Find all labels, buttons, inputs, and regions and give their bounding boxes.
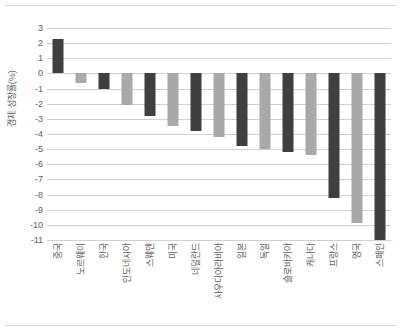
y-axis-tick-label: 0 bbox=[38, 69, 43, 78]
bar-slot bbox=[70, 28, 93, 240]
x-axis-label-독일: 독일 bbox=[260, 243, 269, 259]
x-axis-label-프랑스: 프랑스 bbox=[329, 243, 338, 267]
y-axis-tick-label: 3 bbox=[38, 24, 43, 33]
x-label-slot: 영국 bbox=[345, 243, 368, 327]
y-axis-tick-label: -10 bbox=[30, 220, 43, 229]
bar-영국 bbox=[351, 73, 362, 223]
y-axis-tick-labels: 3210-1-2-3-4-5-6-7-8-9-10-11 bbox=[10, 28, 43, 240]
y-axis-tick-label: 1 bbox=[38, 54, 43, 63]
bar-한국 bbox=[99, 73, 110, 88]
plot-area bbox=[47, 28, 391, 240]
bar-slot bbox=[368, 28, 391, 240]
x-label-slot: 스페인 bbox=[368, 243, 391, 327]
x-axis-label-인도네시아: 인도네시아 bbox=[123, 243, 132, 283]
economic-growth-bar-chart: 경제 성장률(%) 3210-1-2-3-4-5-6-7-8-9-10-11 중… bbox=[0, 0, 402, 331]
bar-일본 bbox=[236, 73, 247, 146]
x-axis-label-노르웨이: 노르웨이 bbox=[77, 243, 86, 275]
bar-slot bbox=[345, 28, 368, 240]
y-axis-tick-label: -3 bbox=[35, 114, 43, 123]
x-label-slot: 한국 bbox=[93, 243, 116, 327]
bar-스페인 bbox=[374, 73, 385, 240]
bar-slot bbox=[139, 28, 162, 240]
x-label-slot: 중국 bbox=[47, 243, 70, 327]
gridline bbox=[47, 240, 391, 241]
y-axis-tick-label: -1 bbox=[35, 84, 43, 93]
top-divider-rule bbox=[6, 5, 396, 6]
bar-노르웨이 bbox=[76, 73, 87, 82]
x-axis-label-슬로바키아: 슬로바키아 bbox=[283, 243, 292, 283]
bar-series bbox=[47, 28, 391, 240]
x-label-slot: 미국 bbox=[162, 243, 185, 327]
x-label-slot: 사우디아라비아 bbox=[208, 243, 231, 327]
y-axis-tick-label: -5 bbox=[35, 145, 43, 154]
x-axis-label-스페인: 스페인 bbox=[375, 243, 384, 267]
bar-slot bbox=[322, 28, 345, 240]
x-axis-label-한국: 한국 bbox=[100, 243, 109, 259]
bar-slot bbox=[185, 28, 208, 240]
bar-프랑스 bbox=[328, 73, 339, 197]
y-axis-tick-label: -4 bbox=[35, 130, 43, 139]
x-label-slot: 일본 bbox=[231, 243, 254, 327]
bar-slot bbox=[162, 28, 185, 240]
y-axis-tick-label: -6 bbox=[35, 160, 43, 169]
x-axis-label-네덜란드: 네덜란드 bbox=[192, 243, 201, 275]
x-label-slot: 프랑스 bbox=[322, 243, 345, 327]
bar-캐나다 bbox=[305, 73, 316, 155]
bar-슬로바키아 bbox=[282, 73, 293, 152]
x-axis-label-캐나다: 캐나다 bbox=[306, 243, 315, 267]
bar-slot bbox=[93, 28, 116, 240]
x-axis-label-사우디아라비아: 사우디아라비아 bbox=[215, 243, 224, 299]
bar-slot bbox=[299, 28, 322, 240]
bar-인도네시아 bbox=[122, 73, 133, 105]
y-axis-tick-label: -7 bbox=[35, 175, 43, 184]
x-label-slot: 독일 bbox=[253, 243, 276, 327]
x-label-slot: 캐나다 bbox=[299, 243, 322, 327]
x-axis-label-영국: 영국 bbox=[352, 243, 361, 259]
x-label-slot: 스웨덴 bbox=[139, 243, 162, 327]
x-label-slot: 슬로바키아 bbox=[276, 243, 299, 327]
bar-slot bbox=[116, 28, 139, 240]
y-axis-tick-label: -2 bbox=[35, 99, 43, 108]
x-axis-category-labels: 중국노르웨이한국인도네시아스웨덴미국네덜란드사우디아라비아일본독일슬로바키아캐나… bbox=[47, 243, 391, 327]
x-axis-label-일본: 일본 bbox=[237, 243, 246, 259]
x-axis-label-미국: 미국 bbox=[169, 243, 178, 259]
bar-스웨덴 bbox=[145, 73, 156, 115]
x-label-slot: 네덜란드 bbox=[185, 243, 208, 327]
bar-slot bbox=[47, 28, 70, 240]
bar-독일 bbox=[259, 73, 270, 149]
x-axis-label-중국: 중국 bbox=[54, 243, 63, 259]
bar-네덜란드 bbox=[191, 73, 202, 131]
bar-slot bbox=[231, 28, 254, 240]
x-label-slot: 노르웨이 bbox=[70, 243, 93, 327]
bar-미국 bbox=[168, 73, 179, 126]
bar-사우디아라비아 bbox=[214, 73, 225, 137]
bar-slot bbox=[208, 28, 231, 240]
y-axis-tick-label: -9 bbox=[35, 205, 43, 214]
bar-slot bbox=[276, 28, 299, 240]
y-axis-tick-label: -8 bbox=[35, 190, 43, 199]
y-axis-tick-label: -11 bbox=[31, 236, 43, 245]
x-label-slot: 인도네시아 bbox=[116, 243, 139, 327]
bar-slot bbox=[253, 28, 276, 240]
bar-중국 bbox=[53, 39, 64, 74]
x-axis-label-스웨덴: 스웨덴 bbox=[146, 243, 155, 267]
y-axis-tick-label: 2 bbox=[38, 39, 43, 48]
